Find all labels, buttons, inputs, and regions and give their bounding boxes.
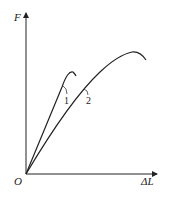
y-axis-label: F: [13, 11, 21, 23]
curve-1-label: 1: [64, 95, 69, 106]
x-axis-label: ΔL: [140, 175, 154, 187]
leader-1: [63, 86, 67, 94]
curve-1: [26, 72, 76, 174]
curve-2-label: 2: [86, 95, 91, 106]
force-elongation-diagram: 1 2 F O ΔL: [0, 0, 171, 198]
origin-label: O: [14, 175, 22, 187]
curve-2: [26, 52, 146, 174]
